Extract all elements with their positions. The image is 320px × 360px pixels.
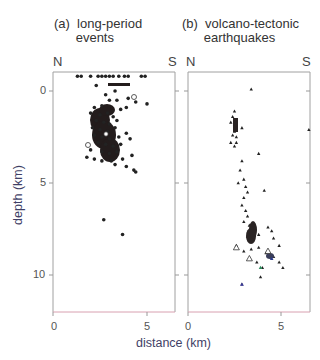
data-point [111, 74, 115, 78]
panel-b-frame [184, 72, 310, 316]
data-point [108, 152, 112, 156]
data-point [117, 135, 121, 139]
data-point [229, 121, 232, 124]
data-point [257, 152, 260, 155]
data-point [79, 74, 83, 78]
data-point [102, 218, 106, 222]
data-point [85, 155, 89, 159]
data-point [111, 144, 115, 148]
data-point [113, 126, 117, 130]
data-point [100, 104, 104, 108]
data-point [237, 181, 240, 184]
panel-b-open-markers [233, 244, 271, 260]
data-point [119, 108, 123, 112]
data-point [125, 106, 129, 110]
data-point [121, 157, 125, 161]
data-point [115, 98, 119, 102]
data-point [94, 119, 98, 123]
colored-data-point [240, 282, 244, 285]
data-point [238, 168, 241, 171]
data-point [272, 237, 275, 240]
data-point [233, 145, 236, 148]
data-point [96, 141, 100, 145]
data-point [242, 178, 245, 181]
data-point [240, 126, 243, 129]
data-point [89, 111, 93, 115]
data-point [277, 260, 280, 263]
data-point [126, 97, 130, 101]
data-point [93, 106, 97, 110]
data-point [266, 225, 269, 228]
data-point [113, 89, 117, 93]
data-point [93, 133, 97, 137]
data-point [255, 260, 258, 263]
open-data-point [246, 255, 252, 260]
data-point [109, 159, 113, 163]
data-point [242, 249, 245, 252]
data-point [108, 98, 112, 102]
data-point [244, 185, 247, 188]
open-data-point [233, 244, 239, 249]
data-point [100, 159, 104, 163]
data-point [242, 196, 245, 199]
data-point [229, 141, 232, 144]
data-point [233, 110, 236, 113]
data-point [134, 170, 138, 174]
data-point [100, 74, 104, 78]
data-point [231, 133, 234, 136]
data-point [89, 148, 93, 152]
data-point [108, 137, 112, 141]
data-point [246, 214, 249, 217]
data-point [257, 233, 260, 236]
data-point [108, 122, 112, 126]
data-point [111, 115, 115, 119]
data-point [250, 87, 253, 90]
data-point [145, 102, 149, 106]
data-point [115, 150, 119, 154]
data-point [104, 143, 108, 147]
data-point [277, 244, 280, 247]
data-point [117, 74, 121, 78]
data-point [281, 266, 284, 269]
data-point [102, 120, 106, 124]
data-point [98, 128, 102, 132]
data-point [235, 141, 238, 144]
chart-canvas [0, 0, 320, 360]
data-point [115, 119, 119, 123]
data-point [270, 229, 273, 232]
data-point [91, 126, 95, 130]
data-point [113, 163, 117, 167]
data-point [244, 209, 247, 212]
data-point [108, 74, 112, 78]
data-point [143, 74, 147, 78]
data-point [250, 248, 253, 251]
data-point [89, 74, 93, 78]
data-point [104, 74, 108, 78]
open-data-point [265, 248, 271, 253]
data-point [259, 275, 262, 278]
data-point [126, 74, 130, 78]
data-point [100, 150, 104, 154]
data-point [100, 135, 104, 139]
data-point [130, 154, 134, 158]
data-point [128, 137, 132, 141]
data-point [123, 74, 127, 78]
data-point [134, 100, 138, 104]
data-point [104, 93, 108, 97]
data-point [246, 191, 249, 194]
data-point [125, 132, 129, 136]
data-point [235, 135, 238, 138]
data-point [98, 113, 102, 117]
data-point [93, 157, 97, 161]
data-point [240, 159, 243, 162]
panel-b-dense-cluster [233, 118, 274, 259]
data-point [106, 111, 110, 115]
data-point [263, 189, 266, 192]
data-point [125, 165, 129, 169]
data-point [94, 84, 98, 88]
data-point [231, 115, 234, 118]
data-point [96, 74, 100, 78]
data-point [257, 246, 260, 249]
data-point [76, 74, 80, 78]
data-point [119, 143, 123, 147]
